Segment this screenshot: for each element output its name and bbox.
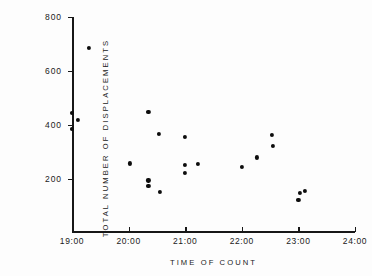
data-point	[146, 109, 150, 113]
data-point	[146, 184, 150, 188]
data-point	[240, 164, 244, 168]
y-tick-800: 800	[68, 17, 73, 18]
data-point	[157, 132, 161, 136]
x-axis-line	[72, 231, 355, 233]
data-point	[76, 118, 80, 122]
x-tick-1900: 19:00	[72, 227, 73, 232]
y-tick-600: 600	[68, 71, 73, 72]
y-tick-label: 400	[45, 120, 62, 130]
x-tick-2200: 22:00	[242, 227, 243, 232]
x-tick-2000: 20:00	[129, 227, 130, 232]
data-point	[183, 163, 187, 167]
plot-area: 200400600800 19:0020:0021:0022:0023:0024…	[72, 17, 355, 233]
x-tick-2400: 24:00	[355, 227, 356, 232]
data-point	[87, 46, 91, 50]
data-point	[303, 189, 307, 193]
x-axis-title: TIME OF COUNT	[72, 258, 355, 267]
data-point	[254, 155, 258, 159]
data-point	[158, 190, 162, 194]
y-tick-label: 200	[45, 174, 62, 184]
x-tick-2100: 21:00	[185, 227, 186, 232]
x-tick-label: 21:00	[173, 236, 197, 246]
x-tick-label: 23:00	[286, 236, 310, 246]
data-point	[183, 170, 187, 174]
x-tick-label: 19:00	[60, 236, 84, 246]
data-point	[183, 135, 187, 139]
x-tick-label: 24:00	[343, 236, 367, 246]
data-point	[128, 161, 132, 165]
y-tick-label: 800	[45, 12, 62, 22]
x-tick-2300: 23:00	[298, 227, 299, 232]
y-tick-200: 200	[68, 179, 73, 180]
data-point	[296, 198, 300, 202]
y-tick-label: 600	[45, 66, 62, 76]
data-point	[297, 190, 301, 194]
data-point	[271, 144, 275, 148]
data-point	[196, 162, 200, 166]
x-tick-label: 22:00	[230, 236, 254, 246]
x-tick-label: 20:00	[116, 236, 140, 246]
data-point	[146, 178, 150, 182]
data-point	[270, 133, 274, 137]
scatter-chart-figure: TOTAL NUMBER OF DISPLACEMENTS 2004006008…	[0, 0, 372, 276]
